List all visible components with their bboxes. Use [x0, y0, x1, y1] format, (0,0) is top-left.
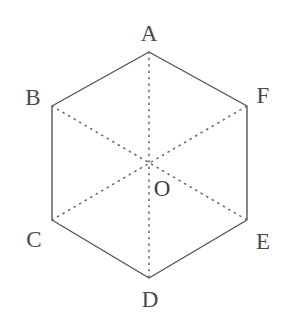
center-label-o: O [147, 177, 177, 200]
vertex-label-f: F [248, 84, 278, 107]
hexagon-figure-canvas [0, 0, 292, 335]
vertex-label-c: C [19, 228, 49, 251]
hexagon-diagram: A B C D E F O [0, 0, 292, 335]
vertex-label-b: B [18, 86, 48, 109]
vertex-label-a: A [134, 22, 164, 45]
vertex-label-d: D [135, 288, 165, 311]
vertex-label-e: E [248, 230, 278, 253]
